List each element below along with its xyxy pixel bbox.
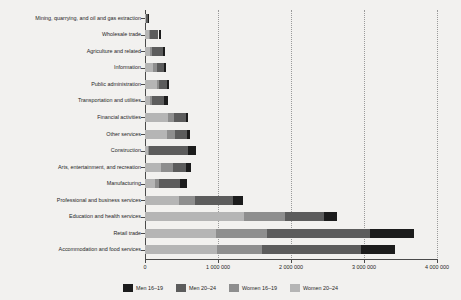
category-label: Wholesale trade: [102, 31, 141, 38]
bar-segment: [145, 113, 168, 122]
bar-segment: [175, 130, 186, 139]
bar-row: [145, 30, 437, 39]
category-label: Professional and business services: [57, 197, 141, 204]
x-axis-tick-label: 3 000 000: [352, 264, 376, 271]
y-axis-tick: [141, 233, 145, 234]
bar-row: [145, 229, 437, 238]
y-axis-tick: [141, 18, 145, 19]
x-axis-tick: [364, 259, 365, 263]
y-axis-tick: [141, 200, 145, 201]
bar-segment: [233, 196, 243, 205]
bar-segment: [164, 63, 166, 72]
bar-segment: [145, 179, 155, 188]
bar-segment: [179, 196, 194, 205]
bar-segment: [150, 30, 158, 39]
bar-segment: [262, 245, 361, 254]
y-axis-tick: [141, 167, 145, 168]
legend-item[interactable]: Men 16–19: [123, 284, 163, 292]
legend-label: Men 20–24: [189, 284, 216, 292]
bar-segment: [167, 130, 175, 139]
y-axis-tick: [141, 84, 145, 85]
bar-segment: [180, 179, 187, 188]
category-label: Manufacturing: [107, 180, 141, 187]
bar-segment: [361, 245, 395, 254]
bar-segment: [149, 146, 188, 155]
legend-swatch: [290, 284, 300, 292]
legend-item[interactable]: Women 20–24: [290, 284, 338, 292]
legend-item[interactable]: Men 20–24: [176, 284, 216, 292]
bar-row: [145, 130, 437, 139]
x-axis-tick: [437, 259, 438, 263]
x-axis-tick-label: 0: [144, 264, 147, 271]
bar-segment: [188, 146, 196, 155]
category-label: Information: [114, 64, 141, 71]
bar-row: [145, 163, 437, 172]
bar-row: [145, 14, 437, 23]
x-axis-tick: [291, 259, 292, 263]
bar-segment: [152, 96, 164, 105]
bar-segment: [173, 163, 186, 172]
x-axis-tick-label: 2 000 000: [279, 264, 303, 271]
bar-segment: [164, 96, 168, 105]
y-axis-tick: [141, 117, 145, 118]
bar-segment: [159, 179, 180, 188]
bar-row: [145, 113, 437, 122]
category-label: Arts, entertainment, and recreation: [58, 164, 141, 171]
bar-segment: [145, 196, 179, 205]
bar-row: [145, 96, 437, 105]
bar-segment: [152, 47, 163, 56]
bar-row: [145, 245, 437, 254]
legend-item[interactable]: Women 16–19: [229, 284, 277, 292]
category-axis-labels: Mining, quarrying, and oil and gas extra…: [0, 10, 141, 258]
y-axis-tick: [141, 51, 145, 52]
bar-segment: [145, 163, 161, 172]
y-axis-tick: [141, 101, 145, 102]
bar-segment: [145, 80, 157, 89]
legend-swatch: [176, 284, 186, 292]
x-axis-tick-label: 1 000 000: [206, 264, 230, 271]
category-label: Construction: [111, 147, 141, 154]
bar-segment: [217, 245, 262, 254]
legend-label: Women 16–19: [242, 284, 277, 292]
bar-segment: [244, 212, 285, 221]
category-label: Education and health services: [69, 213, 141, 220]
bar-segment: [148, 14, 149, 23]
bar-segment: [267, 229, 370, 238]
legend-swatch: [229, 284, 239, 292]
category-label: Agriculture and related: [87, 48, 141, 55]
bar-segment: [145, 130, 167, 139]
bar-segment: [159, 30, 162, 39]
category-label: Other services: [106, 131, 141, 138]
bar-row: [145, 80, 437, 89]
plot-area: [145, 10, 437, 258]
category-label: Retail trade: [113, 230, 141, 237]
x-axis-tick: [145, 259, 146, 263]
category-label: Transportation and utilities: [78, 97, 141, 104]
bar-segment: [174, 113, 186, 122]
bar-row: [145, 47, 437, 56]
bar-segment: [216, 229, 267, 238]
bar-segment: [324, 212, 337, 221]
x-axis-tick-label: 4 000 000: [425, 264, 449, 271]
x-axis-tick: [218, 259, 219, 263]
category-label: Accommodation and food services: [59, 246, 141, 253]
y-axis-tick: [141, 68, 145, 69]
gridline: [437, 10, 439, 258]
bar-segment: [159, 80, 167, 89]
bar-row: [145, 63, 437, 72]
bar-segment: [187, 130, 190, 139]
bar-segment: [370, 229, 414, 238]
legend-label: Men 16–19: [136, 284, 163, 292]
y-axis-tick: [141, 217, 145, 218]
y-axis-tick: [141, 250, 145, 251]
bar-segment: [167, 80, 169, 89]
horizontal-stacked-bar-chart: Mining, quarrying, and oil and gas extra…: [0, 0, 461, 300]
bar-row: [145, 196, 437, 205]
bar-segment: [145, 245, 217, 254]
bar-segment: [186, 163, 191, 172]
legend-swatch: [123, 284, 133, 292]
bar-segment: [161, 163, 172, 172]
bar-row: [145, 179, 437, 188]
category-label: Financial activities: [97, 114, 141, 121]
bar-segment: [145, 212, 244, 221]
